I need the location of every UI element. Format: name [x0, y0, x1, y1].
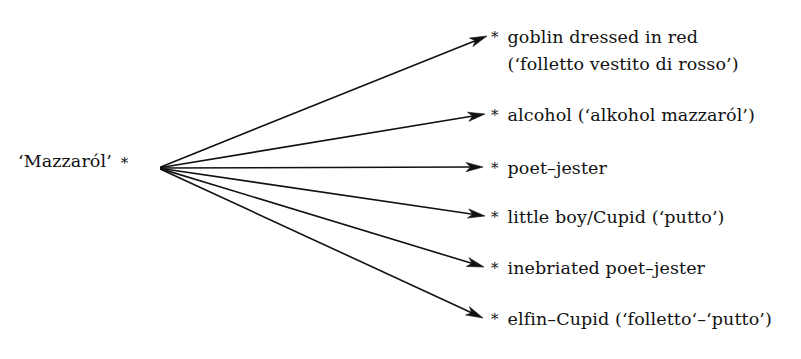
target-label-line: little boy/Cupid (‘putto’)	[508, 204, 725, 231]
target-asterisk-icon: *	[491, 161, 499, 176]
target-label-block: elfin–Cupid (‘folletto‘–‘putto’)	[508, 306, 772, 333]
arrow-line	[161, 116, 473, 168]
target-asterisk-icon: *	[491, 312, 499, 327]
target-node: *goblin dressed in red(‘folletto vestito…	[491, 24, 739, 78]
arrow-line	[161, 40, 476, 166]
target-label-line: alcohol (‘alkohol mazzaról’)	[508, 102, 755, 129]
diagram-canvas: ‘Mazzaról’ * *goblin dressed in red(‘fol…	[0, 0, 801, 359]
source-asterisk-icon: *	[121, 156, 129, 171]
target-label-block: inebriated poet–jester	[508, 255, 706, 282]
target-label-block: alcohol (‘alkohol mazzaról’)	[508, 102, 755, 129]
target-label-line: inebriated poet–jester	[508, 255, 706, 282]
target-node: *poet–jester	[491, 155, 607, 182]
target-label-block: little boy/Cupid (‘putto’)	[508, 204, 725, 231]
target-asterisk-icon: *	[491, 210, 499, 225]
target-node: *alcohol (‘alkohol mazzaról’)	[491, 102, 755, 129]
target-asterisk-icon: *	[491, 261, 499, 276]
arrow-head-icon	[466, 307, 483, 318]
source-label: ‘Mazzaról’	[18, 151, 112, 171]
arrow-line	[161, 169, 473, 264]
target-label-block: poet–jester	[508, 155, 608, 182]
target-node: *inebriated poet–jester	[491, 255, 705, 282]
target-label-block: goblin dressed in red(‘folletto vestito …	[508, 24, 739, 78]
target-label-line: (‘folletto vestito di rosso’)	[508, 51, 739, 78]
target-label-line: poet–jester	[508, 155, 608, 182]
target-node: *little boy/Cupid (‘putto’)	[491, 204, 724, 231]
arrow-line	[161, 167, 471, 168]
target-label-line: goblin dressed in red	[508, 24, 739, 51]
target-label-line: elfin–Cupid (‘folletto‘–‘putto’)	[508, 306, 772, 333]
target-asterisk-icon: *	[491, 30, 499, 45]
source-node: ‘Mazzaról’ *	[18, 151, 128, 171]
target-asterisk-icon: *	[491, 108, 499, 123]
target-node: *elfin–Cupid (‘folletto‘–‘putto’)	[491, 306, 772, 333]
